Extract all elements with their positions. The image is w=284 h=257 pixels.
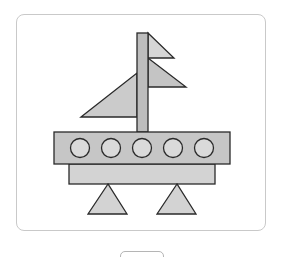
porthole-circle	[164, 139, 183, 158]
puzzle-stage	[0, 0, 284, 257]
porthole-circle	[133, 139, 152, 158]
porthole-circle	[71, 139, 90, 158]
sailboat-figure	[0, 0, 284, 257]
right-wheel-triangle	[157, 184, 196, 214]
left-wheel-triangle	[88, 184, 127, 214]
left-sail-triangle	[81, 73, 137, 117]
porthole-circle	[195, 139, 214, 158]
top-flag-triangle	[148, 33, 174, 58]
lower-flag-triangle	[148, 58, 186, 87]
porthole-circle	[102, 139, 121, 158]
mast-rect	[137, 33, 148, 132]
bottom-button[interactable]	[120, 251, 164, 257]
lower-hull-rect	[69, 164, 215, 184]
